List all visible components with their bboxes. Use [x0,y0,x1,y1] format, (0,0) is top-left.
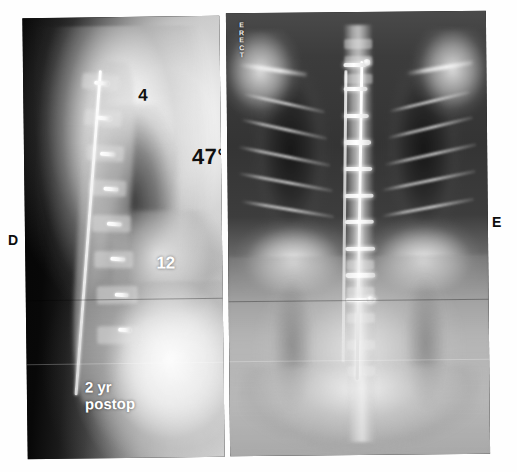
pedicle-screw-hardware [363,58,370,65]
cross-link-hardware [345,220,374,224]
vertebral-level-label-upper: 4 [138,86,148,106]
cross-link-hardware [345,247,375,251]
kyphosis-angle-label: 47° [192,144,225,170]
panel-letter-e: E [492,214,502,230]
erect-marker-char: R [239,29,244,37]
timepoint-line-1: 2 yr [85,378,135,396]
erect-marker-char: C [239,44,244,52]
vertebral-body [348,366,375,376]
lateral-spine-radiograph: 4 12 47° 2 yr postop [22,16,224,459]
cross-link-hardware [345,193,374,197]
timepoint-label-lateral: 2 yr postop [85,378,135,413]
vertebral-level-label-lower: 12 [156,254,175,271]
spinal-hook-hardware [114,292,128,297]
ap-spine-radiograph: E R E C T 2 yr postop [226,11,490,456]
spinal-hook-hardware [103,186,118,191]
panel-letter-d: D [8,232,18,248]
vertebral-body [345,74,372,84]
cross-link-hardware [345,273,375,277]
cross-link-hardware [344,87,368,91]
cross-link-hardware [344,167,372,171]
timepoint-line-2: postop [85,395,135,413]
cross-link-hardware [344,114,370,118]
erect-film-marker: E R E C T [236,21,247,59]
vertebral-body [347,313,374,323]
left-shoulder-girdle [413,28,490,117]
erect-marker-char: E [239,36,244,44]
vertebral-body [347,340,374,350]
erect-marker-char: E [239,21,244,29]
vertebral-body [344,38,371,48]
spinal-hook-hardware [100,151,115,156]
spinal-hook-hardware [118,328,131,333]
erect-marker-char: T [240,51,244,59]
radiograph-figure: 4 12 47° 2 yr postop [0,0,517,472]
cross-link-hardware [344,140,371,144]
